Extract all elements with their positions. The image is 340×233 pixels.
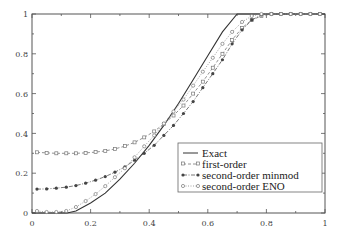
legend-marker-open-circle	[181, 184, 184, 187]
data-point-first-order	[45, 151, 48, 154]
y-tick-label: 0.6	[15, 90, 28, 99]
data-point-second-order-minmod	[172, 124, 175, 127]
x-tick-label: 0.2	[84, 219, 97, 228]
data-point-first-order	[221, 52, 224, 55]
data-point-second-order-eno	[65, 209, 68, 212]
data-point-second-order-eno	[104, 185, 107, 188]
data-point-second-order-eno	[221, 42, 224, 45]
data-point-first-order	[192, 92, 195, 95]
data-point-second-order-eno	[35, 209, 38, 212]
data-point-second-order-minmod	[192, 100, 195, 103]
data-point-second-order-minmod	[94, 179, 97, 182]
data-point-first-order	[35, 151, 38, 154]
data-point-second-order-eno	[231, 30, 234, 33]
data-point-first-order	[84, 151, 87, 154]
data-point-second-order-minmod	[55, 187, 58, 190]
data-point-second-order-minmod	[231, 42, 234, 45]
data-point-second-order-eno	[55, 210, 58, 213]
legend-marker-open-circle	[196, 184, 199, 187]
y-tick-label: 0.2	[15, 169, 28, 178]
data-point-second-order-minmod	[240, 28, 243, 31]
data-point-second-order-minmod	[221, 58, 224, 61]
data-point-second-order-eno	[270, 12, 273, 15]
data-point-first-order	[153, 130, 156, 133]
data-point-second-order-minmod	[113, 171, 116, 174]
data-point-second-order-eno	[133, 156, 136, 159]
data-point-second-order-minmod	[153, 144, 156, 147]
x-tick-label: 0	[29, 219, 34, 228]
data-point-second-order-eno	[45, 210, 48, 213]
data-point-second-order-minmod	[211, 72, 214, 75]
data-point-second-order-eno	[309, 12, 312, 15]
legend: Exact first-order second-order minmod se…	[178, 143, 322, 192]
data-point-second-order-minmod	[250, 18, 253, 21]
data-point-first-order	[123, 145, 126, 148]
data-point-second-order-eno	[113, 176, 116, 179]
data-point-first-order	[55, 152, 58, 155]
data-point-second-order-minmod	[104, 175, 107, 178]
data-point-first-order	[201, 80, 204, 83]
data-point-second-order-eno	[289, 12, 292, 15]
data-point-second-order-eno	[123, 167, 126, 170]
data-point-second-order-minmod	[35, 188, 38, 191]
data-point-second-order-eno	[143, 145, 146, 148]
x-tick-label: 0.8	[260, 219, 273, 228]
legend-marker-filled-circle	[181, 173, 184, 176]
axis-tick-labels: 0 0.2 0.4 0.6 0.8 1 0 0.2 0.4 0.6 0.8 1	[15, 10, 327, 228]
data-point-second-order-eno	[153, 134, 156, 137]
data-point-first-order	[211, 66, 214, 69]
data-point-second-order-minmod	[143, 152, 146, 155]
data-point-second-order-eno	[318, 12, 321, 15]
data-point-first-order	[143, 136, 146, 139]
data-point-first-order	[104, 149, 107, 152]
data-point-second-order-minmod	[65, 186, 68, 189]
data-point-second-order-eno	[299, 12, 302, 15]
legend-label: second-order ENO	[202, 180, 285, 192]
data-point-second-order-minmod	[74, 184, 77, 187]
legend-marker-filled-circle	[196, 173, 199, 176]
data-point-first-order	[133, 141, 136, 144]
data-point-second-order-eno	[192, 84, 195, 87]
data-point-second-order-eno	[279, 12, 282, 15]
data-point-second-order-eno	[260, 12, 263, 15]
data-point-second-order-minmod	[45, 187, 48, 190]
series-first-order	[35, 13, 321, 155]
data-point-first-order	[231, 38, 234, 41]
data-point-second-order-eno	[201, 70, 204, 73]
data-point-first-order	[172, 114, 175, 117]
data-point-second-order-eno	[250, 14, 253, 17]
data-point-second-order-minmod	[162, 134, 165, 137]
data-point-first-order	[94, 151, 97, 154]
y-tick-label: 0.4	[15, 130, 28, 139]
data-point-second-order-eno	[162, 122, 165, 125]
data-point-second-order-eno	[182, 98, 185, 101]
data-point-second-order-eno	[211, 56, 214, 59]
legend-marker-open-square	[197, 162, 200, 165]
chart: 0 0.2 0.4 0.6 0.8 1 0 0.2 0.4 0.6 0.8 1 …	[0, 0, 340, 233]
x-tick-label: 0.6	[201, 219, 214, 228]
y-tick-label: 1	[23, 10, 28, 19]
data-point-second-order-minmod	[201, 86, 204, 89]
data-point-second-order-eno	[172, 110, 175, 113]
x-tick-label: 1	[322, 219, 327, 228]
y-tick-label: 0	[23, 209, 28, 218]
data-point-first-order	[65, 152, 68, 155]
y-tick-label: 0.8	[15, 50, 28, 59]
data-point-second-order-eno	[240, 20, 243, 23]
data-point-second-order-minmod	[84, 182, 87, 185]
x-tick-label: 0.4	[143, 219, 156, 228]
data-point-second-order-eno	[84, 199, 87, 202]
data-point-second-order-eno	[74, 205, 77, 208]
data-point-second-order-minmod	[182, 112, 185, 115]
data-point-first-order	[182, 104, 185, 107]
data-point-first-order	[113, 147, 116, 150]
data-point-first-order	[74, 152, 77, 155]
data-point-second-order-eno	[94, 192, 97, 195]
series-line-first-order	[37, 14, 320, 153]
legend-marker-open-square	[182, 162, 185, 165]
